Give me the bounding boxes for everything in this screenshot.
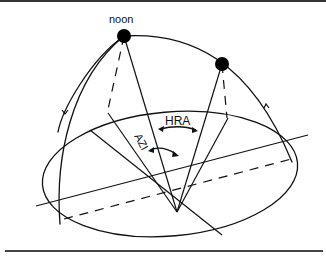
- hra-arrow-right-icon: [192, 127, 198, 133]
- bottom-rule: [5, 250, 323, 252]
- sun-position-dot: [215, 57, 229, 71]
- sun-path-diagram: noon HRA AZI: [0, 0, 326, 256]
- ew-dashed-line: [64, 158, 295, 219]
- hra-label: HRA: [165, 114, 190, 128]
- arc-arrow-right: [264, 104, 269, 108]
- noon-label: noon: [109, 13, 133, 25]
- sun-projection-line: [177, 118, 228, 212]
- sun-drop-dashed: [222, 64, 227, 118]
- noon-sun-dot: [117, 29, 131, 43]
- azi-arrow-right-icon: [172, 151, 179, 157]
- hra-arrow-left-icon: [158, 126, 164, 132]
- diagram-frame: noon HRA AZI: [0, 0, 326, 256]
- azi-arrow-left-icon: [148, 147, 154, 153]
- sun-to-center-line: [177, 64, 222, 212]
- azi-label: AZI: [132, 131, 151, 152]
